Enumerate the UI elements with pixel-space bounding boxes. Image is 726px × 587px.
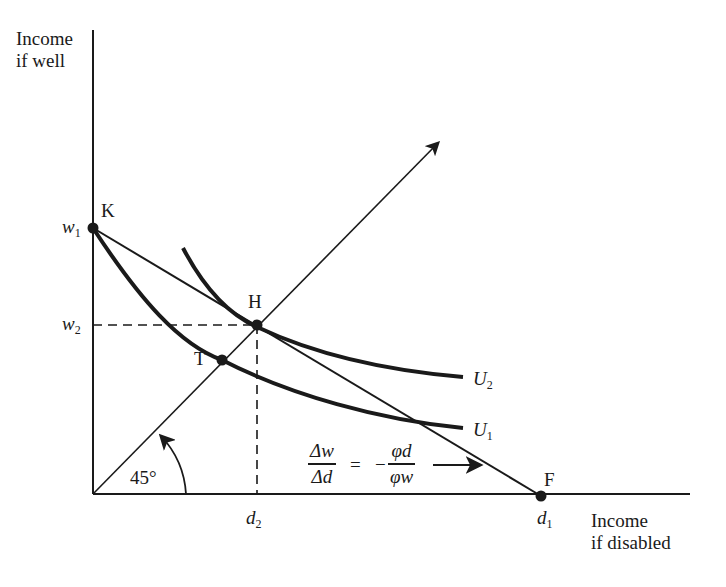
w2-tick-label: w2 [62, 313, 81, 341]
equation-rhs-fraction: φd φw [388, 440, 415, 488]
x-axis-label: Income if disabled [591, 510, 671, 554]
point-f [536, 491, 547, 502]
u2-base: U [473, 368, 487, 389]
fraction-bar [308, 463, 336, 465]
y-axis-label-line1: Income [16, 28, 73, 50]
point-t [217, 355, 228, 366]
fraction-bar [388, 463, 415, 465]
equation-lhs-fraction: Δw Δd [308, 440, 336, 488]
d1-base: d [537, 507, 547, 528]
u2-curve-label: U2 [473, 368, 493, 396]
y-axis-label: Income if well [16, 28, 73, 72]
point-h-label: H [248, 291, 262, 313]
diagram-canvas [0, 0, 726, 587]
equation-rhs-denominator: φw [388, 466, 415, 488]
point-k [88, 223, 99, 234]
w1-base: w [62, 216, 75, 237]
point-t-label: T [194, 348, 206, 370]
forty-five-degree-line [93, 143, 438, 494]
d1-tick-label: d1 [537, 507, 553, 535]
w1-tick-label: w1 [62, 216, 81, 244]
equation-minus: − [375, 454, 386, 476]
point-k-label: K [101, 200, 115, 222]
u1-curve-label: U1 [473, 419, 493, 447]
equation-rhs-numerator: φd [390, 440, 414, 462]
y-axis-label-line2: if well [16, 50, 73, 72]
equation-equals: = [350, 454, 361, 476]
angle-arc-icon [161, 436, 186, 494]
equation-lhs-denominator: Δd [310, 466, 335, 488]
d1-sub: 1 [547, 517, 553, 531]
indifference-curve-u1 [93, 228, 463, 428]
equation-lhs-numerator: Δw [308, 440, 336, 462]
w2-base: w [62, 313, 75, 334]
w2-sub: 2 [75, 323, 81, 337]
point-f-label: F [544, 469, 555, 491]
w1-sub: 1 [75, 226, 81, 240]
u1-sub: 1 [487, 429, 493, 443]
angle-label: 45° [130, 467, 157, 489]
d2-base: d [246, 507, 256, 528]
x-axis-label-line2: if disabled [591, 532, 671, 554]
u1-base: U [473, 419, 487, 440]
d2-sub: 2 [256, 517, 262, 531]
u2-sub: 2 [487, 378, 493, 392]
x-axis-label-line1: Income [591, 510, 671, 532]
d2-tick-label: d2 [246, 507, 262, 535]
point-h [252, 320, 263, 331]
